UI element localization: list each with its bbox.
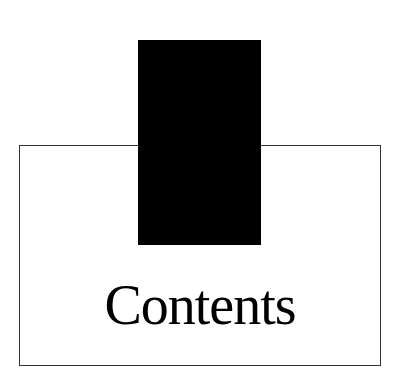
decorative-black-block <box>138 40 261 245</box>
contents-page: Contents <box>0 0 399 384</box>
page-title: Contents <box>19 270 381 340</box>
